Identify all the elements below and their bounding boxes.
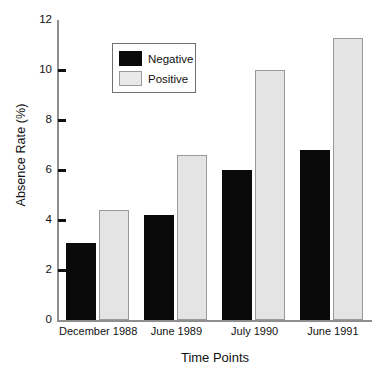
chart-legend: Negative Positive: [112, 43, 196, 93]
x-axis-title: Time Points: [55, 350, 375, 365]
legend-label-negative: Negative: [148, 53, 193, 65]
y-axis-tick-label: 0: [26, 313, 52, 325]
x-axis-line: [57, 320, 372, 322]
bar-negative-3: [300, 150, 330, 320]
y-axis-tick-label: 2: [26, 263, 52, 275]
y-axis-tick-label: 10: [26, 63, 52, 75]
legend-swatch-negative: [119, 51, 142, 66]
plot-area: [59, 20, 372, 320]
x-axis-category-label: June 1991: [284, 325, 382, 337]
bar-negative-2: [222, 170, 252, 320]
y-axis-tick-label: 6: [26, 163, 52, 175]
bar-positive-1: [177, 155, 207, 320]
bar-chart: Absence Rate (%) 024681012 December 1988…: [0, 0, 390, 379]
y-axis-tick-label: 8: [26, 113, 52, 125]
bar-positive-2: [255, 70, 285, 320]
legend-label-positive: Positive: [148, 73, 188, 85]
legend-swatch-positive: [119, 71, 142, 86]
bar-negative-1: [144, 215, 174, 320]
bar-negative-0: [66, 243, 96, 321]
y-axis-tick-label: 12: [26, 13, 52, 25]
legend-item-positive: Positive: [119, 70, 188, 87]
y-axis-tick-label: 4: [26, 213, 52, 225]
y-axis-title: Absence Rate (%): [14, 75, 28, 235]
bar-positive-0: [99, 210, 129, 320]
bar-positive-3: [333, 38, 363, 321]
legend-item-negative: Negative: [119, 50, 193, 67]
